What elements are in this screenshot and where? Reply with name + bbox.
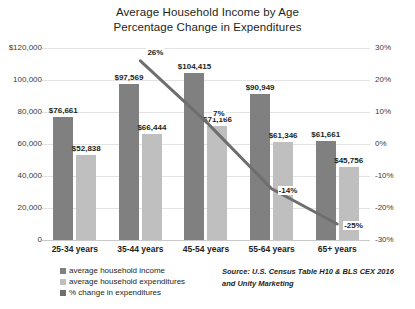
y-axis-left-tick: $120,000: [0, 43, 42, 52]
plot-area: $76,661$52,838$97,569$66,444$104,415$71,…: [42, 48, 370, 240]
bar-expenditures-value-label: $61,346: [259, 131, 307, 140]
bar-expenditures: [207, 126, 227, 240]
chart-container: Average Household Income by Age Percenta…: [0, 0, 415, 309]
source-line-1: Source: U.S. Census Table H10 & BLS CEX …: [222, 266, 412, 278]
chart-title: Average Household Income by Age Percenta…: [0, 5, 415, 34]
bar-income-value-label: $61,661: [302, 130, 350, 139]
y-axis-left-tick: 100,000: [0, 75, 42, 84]
bar-income: [250, 94, 270, 240]
legend-item[interactable]: average household expenditures: [60, 276, 185, 287]
y-axis-right-tick: 30%: [375, 43, 415, 52]
source-note: Source: U.S. Census Table H10 & BLS CEX …: [222, 266, 412, 289]
bar-groups: $76,661$52,838$97,569$66,444$104,415$71,…: [42, 48, 370, 240]
bar-income: [184, 73, 204, 240]
bar-group: $90,949$61,346: [239, 48, 305, 240]
legend-item[interactable]: average household income: [60, 265, 185, 276]
bar-expenditures-value-label: $52,838: [62, 144, 110, 153]
legend-swatch-icon: [60, 268, 66, 274]
legend-item[interactable]: % change in expenditures: [60, 287, 185, 298]
line-point-label: -25%: [343, 221, 364, 230]
y-axis-left-tick: 0: [0, 235, 42, 244]
bar-group: $97,569$66,444: [108, 48, 174, 240]
bar-expenditures: [142, 134, 162, 240]
bar-group: $104,415$71,166: [173, 48, 239, 240]
y-axis-left-tick: 80,000: [0, 107, 42, 116]
y-axis-right-tick: 10%: [375, 107, 415, 116]
y-axis-right-tick: -20%: [375, 203, 415, 212]
bar-income: [53, 117, 73, 240]
y-axis-left-tick: 40,000: [0, 171, 42, 180]
bar-income: [119, 84, 139, 240]
y-axis-left-tick: 60,000: [0, 139, 42, 148]
source-line-2: and Unity Marketing: [222, 278, 412, 290]
chart-legend: average household incomeaverage househol…: [60, 265, 185, 298]
legend-swatch-icon: [60, 290, 66, 296]
y-axis-right-tick: -10%: [375, 171, 415, 180]
bar-expenditures-value-label: $66,444: [128, 123, 176, 132]
gridline: [42, 240, 370, 241]
y-axis-right-tick: -30%: [375, 235, 415, 244]
x-axis-label: 65+ years: [297, 244, 377, 254]
bar-income-value-label: $90,949: [236, 83, 284, 92]
bar-expenditures-value-label: $45,756: [325, 156, 373, 165]
y-axis-right-tick: 20%: [375, 75, 415, 84]
line-point-label: 7%: [212, 109, 226, 118]
bar-income-value-label: $104,415: [171, 62, 219, 71]
bar-income-value-label: $97,569: [105, 73, 153, 82]
legend-item-label: % change in expenditures: [69, 288, 161, 297]
chart-title-line-1: Average Household Income by Age: [0, 5, 415, 20]
bar-group: $61,661$45,756: [304, 48, 370, 240]
bar-income-value-label: $76,661: [39, 106, 87, 115]
line-point-label: 26%: [146, 48, 164, 57]
chart-title-line-2: Percentage Change in Expenditures: [0, 20, 415, 35]
line-point-label: -14%: [278, 186, 299, 195]
legend-item-label: average household expenditures: [69, 277, 185, 286]
bar-expenditures: [76, 155, 96, 240]
legend-item-label: average household income: [69, 266, 165, 275]
bar-group: $76,661$52,838: [42, 48, 108, 240]
y-axis-right-tick: 0%: [375, 139, 415, 148]
y-axis-left-tick: 20,000: [0, 203, 42, 212]
legend-swatch-icon: [60, 279, 66, 285]
